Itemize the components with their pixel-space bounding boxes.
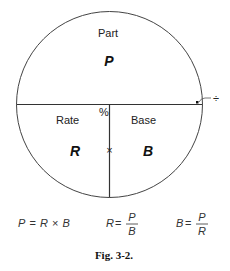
formula-base-eq: = <box>185 217 191 229</box>
formula-base-num: P <box>198 211 206 223</box>
formula-base-lhs: B <box>176 217 183 229</box>
part-label: Part <box>98 27 118 39</box>
base-label: Base <box>131 114 156 126</box>
rate-label: Rate <box>56 114 79 126</box>
formula-part-rhs-b: B <box>62 217 69 229</box>
formula-base: B = P R <box>176 211 208 237</box>
divide-leader-line <box>199 98 211 102</box>
formula-rate: R = P B <box>106 211 138 237</box>
part-symbol: P <box>104 53 114 69</box>
multiply-sign: × <box>106 144 112 156</box>
formula-part-lhs: P <box>18 217 26 229</box>
percentage-circle-diagram: Part P % Rate Base R × B ÷ P = R × B R =… <box>0 0 230 271</box>
formula-part-rhs-a: R <box>40 217 48 229</box>
formula-part: P = R × B <box>18 217 70 229</box>
percent-sign: % <box>99 106 109 118</box>
formula-part-eq: = <box>29 217 35 229</box>
base-symbol: B <box>143 143 153 159</box>
svg-text:P = R ×: P = R × B <box>18 217 70 229</box>
formula-rate-lhs: R <box>106 217 114 229</box>
formula-rate-den: B <box>128 225 135 237</box>
figure-caption: Fig. 3-2. <box>95 249 133 261</box>
divide-marker-dot <box>196 101 199 104</box>
formula-base-den: R <box>198 225 206 237</box>
formula-part-op: × <box>52 217 58 229</box>
formula-rate-num: P <box>128 211 136 223</box>
formula-rate-eq: = <box>115 217 121 229</box>
rate-symbol: R <box>70 143 81 159</box>
divide-sign: ÷ <box>213 92 219 104</box>
